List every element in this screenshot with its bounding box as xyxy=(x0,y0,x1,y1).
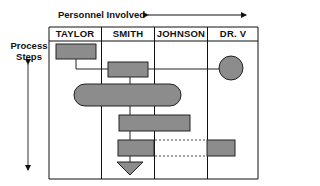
step-3-circle xyxy=(219,56,243,80)
lane-header-johnson: JOHNSON xyxy=(155,27,207,41)
step-1-rectangle xyxy=(56,44,96,59)
lane-header-smith: SMITH xyxy=(102,27,154,41)
dotted-links xyxy=(155,140,207,156)
step-8-triangle xyxy=(117,162,143,175)
lane-header-dr-v: DR. V xyxy=(208,27,258,41)
step-5-rectangle xyxy=(119,115,190,131)
step-7-rectangle xyxy=(207,140,235,156)
step-2-rectangle xyxy=(108,62,148,77)
lane-header-taylor: TAYLOR xyxy=(49,27,101,41)
step-6-rectangle xyxy=(118,140,154,156)
step-4-ellipse xyxy=(74,84,181,106)
